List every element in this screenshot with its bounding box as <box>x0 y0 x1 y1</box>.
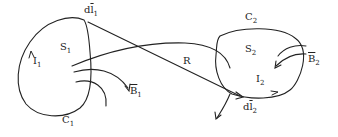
label-B1: B1 <box>130 86 142 99</box>
loop1-curve <box>18 18 91 116</box>
label-C2: C2 <box>245 12 257 25</box>
diagram-drawing <box>0 0 338 137</box>
label-dl2: dl2 <box>243 102 257 115</box>
label-S1: S1 <box>60 42 71 55</box>
field-line-b2-lower <box>276 54 306 66</box>
label-C1: C1 <box>62 115 74 128</box>
field-line-b1-lower <box>76 81 106 106</box>
diagram-canvas: dl1 S1 I1 B1 C1 R C2 S2 B2 I2 dl2 <box>0 0 338 137</box>
field-line-b1 <box>74 69 128 88</box>
label-R: R <box>183 56 191 66</box>
label-dl1: dl1 <box>84 5 98 18</box>
field-line-down <box>217 94 230 118</box>
label-I2: I2 <box>256 74 264 87</box>
label-B2: B2 <box>308 54 320 67</box>
label-S2: S2 <box>245 44 256 57</box>
separation-line-R <box>88 22 240 96</box>
loop2-direction-arrow <box>271 91 278 95</box>
field-line-cross <box>72 43 230 68</box>
label-I1: I1 <box>33 56 41 69</box>
